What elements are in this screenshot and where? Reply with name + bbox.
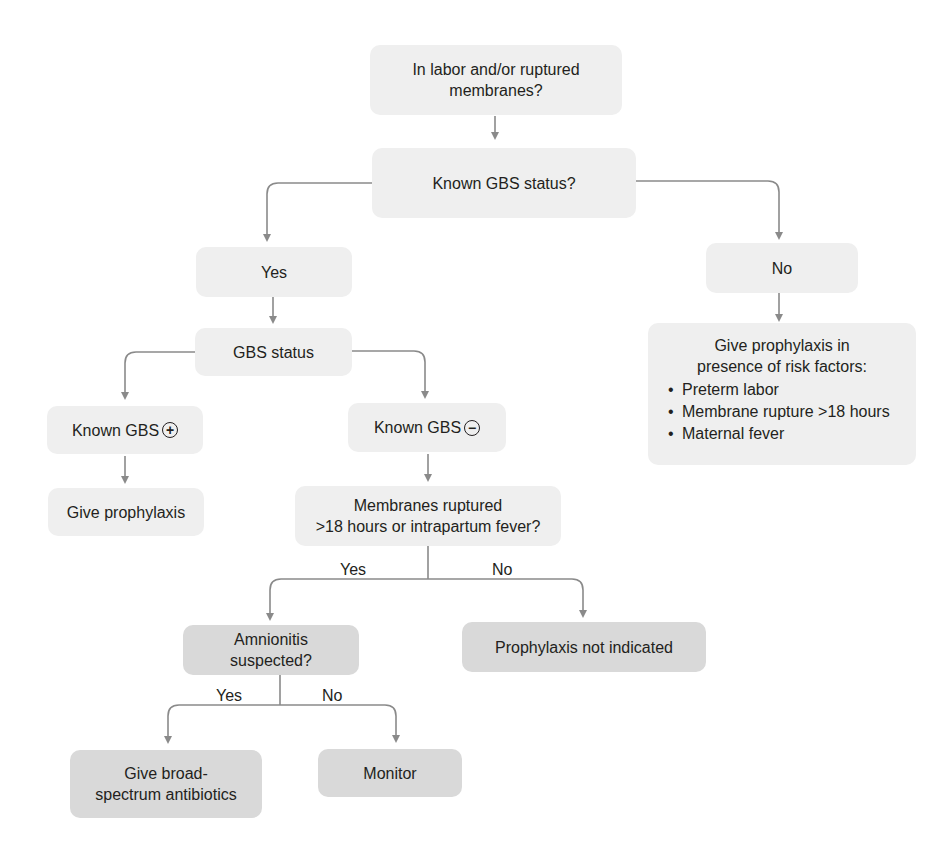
node-not-indicated-text: Prophylaxis not indicated	[495, 637, 673, 658]
node-no: No	[706, 243, 858, 293]
risk-title: Give prophylaxis in presence of risk fac…	[697, 335, 867, 377]
node-in-labor: In labor and/or ruptured membranes?	[370, 45, 622, 115]
risk-factor-item: Preterm labor	[668, 379, 890, 401]
node-membranes-ruptured: Membranes ruptured >18 hours or intrapar…	[295, 486, 561, 546]
node-risk-factors: Give prophylaxis in presence of risk fac…	[648, 323, 916, 465]
node-known-gbs-positive-text: Known GBS	[72, 420, 159, 441]
node-gbs-status: GBS status	[195, 328, 352, 376]
node-give-prophylaxis-text: Give prophylaxis	[67, 502, 185, 523]
risk-title-line2: presence of risk factors:	[697, 356, 867, 377]
risk-title-line1: Give prophylaxis in	[697, 335, 867, 356]
node-known-gbs-negative-text: Known GBS	[374, 417, 461, 438]
edge-label-amnionitis-no: No	[322, 686, 342, 706]
edge-label-membranes-no: No	[492, 560, 512, 580]
node-known-gbs-status-text: Known GBS status?	[432, 173, 575, 194]
node-gbs-status-text: GBS status	[233, 342, 314, 363]
node-known-gbs-status: Known GBS status?	[372, 148, 636, 218]
node-broad-line1: Give broad-	[124, 763, 208, 784]
risk-factor-item: Membrane rupture >18 hours	[668, 401, 890, 423]
risk-factor-list: Preterm labor Membrane rupture >18 hours…	[656, 379, 890, 445]
node-broad-spectrum-antibiotics: Give broad- spectrum antibiotics	[70, 750, 262, 818]
node-broad-line2: spectrum antibiotics	[95, 784, 236, 805]
node-monitor-text: Monitor	[363, 763, 416, 784]
node-membranes-line1: Membranes ruptured	[354, 495, 503, 516]
edge-label-amnionitis-yes: Yes	[216, 686, 242, 706]
node-monitor: Monitor	[318, 749, 462, 797]
node-amnionitis-suspected: Amnionitis suspected?	[183, 625, 359, 675]
node-no-text: No	[772, 258, 792, 279]
node-amnionitis-text: Amnionitis suspected?	[191, 629, 351, 671]
plus-circle-icon: +	[162, 422, 178, 438]
node-in-labor-text: In labor and/or ruptured membranes?	[378, 59, 614, 101]
risk-factor-item: Maternal fever	[668, 423, 890, 445]
node-membranes-line2: >18 hours or intrapartum fever?	[316, 516, 541, 537]
node-give-prophylaxis: Give prophylaxis	[48, 488, 204, 536]
minus-circle-icon: −	[464, 420, 480, 436]
edge-label-membranes-yes: Yes	[340, 560, 366, 580]
node-known-gbs-negative: Known GBS −	[348, 403, 506, 452]
node-prophylaxis-not-indicated: Prophylaxis not indicated	[462, 622, 706, 672]
node-yes-text: Yes	[261, 262, 287, 283]
node-yes: Yes	[196, 247, 352, 297]
node-known-gbs-positive: Known GBS +	[47, 406, 203, 454]
